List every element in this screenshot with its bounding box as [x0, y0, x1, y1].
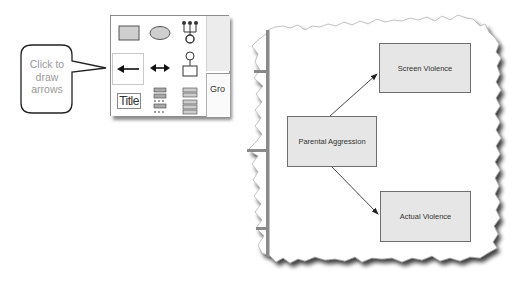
node-parental-aggression[interactable]: Parental Aggression	[287, 116, 377, 167]
node-screen-violence[interactable]: Screen Violence	[379, 43, 471, 93]
node-label: Parental Aggression	[298, 137, 365, 146]
node-label: Actual Violence	[400, 212, 452, 221]
sidebar-bar	[266, 30, 270, 257]
node-label: Screen Violence	[398, 64, 452, 73]
node-actual-violence[interactable]: Actual Violence	[380, 191, 471, 242]
